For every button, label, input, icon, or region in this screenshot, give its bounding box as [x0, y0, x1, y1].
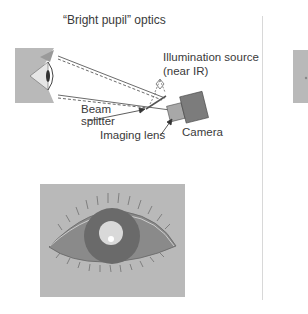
- illumination-source-icon: [150, 79, 165, 104]
- cropped-eye-panel: [293, 50, 308, 103]
- splitter-label: splitter: [81, 115, 115, 128]
- imaging-lens-label: Imaging lens: [100, 129, 165, 142]
- front-eye-icon: [40, 184, 185, 297]
- side-eye-icon: [15, 48, 54, 103]
- camera-label: Camera: [182, 126, 223, 139]
- illumination-source-label: Illumination source: [163, 51, 259, 64]
- near-ir-label: (near IR): [163, 65, 208, 78]
- light-rays: [58, 56, 170, 110]
- panel-divider: [262, 16, 263, 300]
